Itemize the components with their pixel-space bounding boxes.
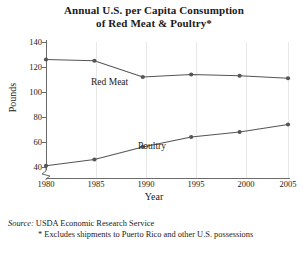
source-text: USDA Economic Research Service: [36, 219, 154, 228]
series-plot-area: [0, 0, 308, 253]
data-point: [286, 122, 290, 126]
series-label-poultry: Poultry: [138, 141, 166, 151]
data-point: [238, 74, 242, 78]
series-label-red-meat: Red Meat: [91, 77, 128, 87]
line-poultry: [46, 125, 288, 166]
data-point: [189, 72, 193, 76]
data-point: [238, 130, 242, 134]
chart-figure: Annual U.S. per Capita Consumption of Re…: [0, 0, 308, 253]
footnote: * Excludes shipments to Puerto Rico and …: [8, 229, 304, 240]
chart-notes: Source: USDA Economic Research Service *…: [8, 218, 304, 240]
data-point: [286, 76, 290, 80]
data-point: [92, 157, 96, 161]
data-point: [141, 75, 145, 79]
data-point: [189, 135, 193, 139]
source-label: Source:: [8, 219, 34, 228]
data-point: [92, 59, 96, 63]
data-point: [44, 57, 48, 61]
line-red-meat: [46, 60, 288, 79]
data-point: [44, 164, 48, 168]
source-note: Source: USDA Economic Research Service: [8, 218, 304, 229]
